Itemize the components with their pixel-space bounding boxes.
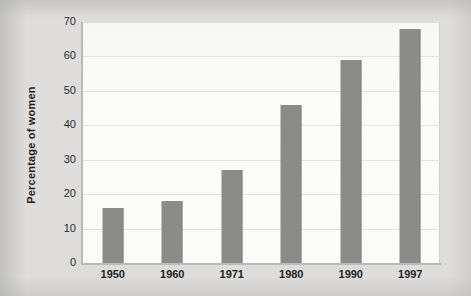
x-axis-tick-label: 1971 [220, 268, 244, 280]
bar-group [83, 22, 143, 263]
x-axis-tick-label: 1980 [279, 268, 303, 280]
bar-chart-figure: 010203040506070 Percentage of women 1950… [0, 0, 471, 296]
bar-series [83, 22, 440, 263]
bar-1960 [162, 201, 183, 263]
y-axis-tick-label: 40 [50, 119, 76, 130]
bar-group [143, 22, 203, 263]
bar-1980 [281, 105, 302, 263]
bar-1971 [221, 170, 242, 263]
bar-1990 [340, 60, 361, 263]
y-axis-tick-label: 10 [50, 223, 76, 234]
bar-group [202, 22, 262, 263]
y-axis-tick-label: 70 [50, 16, 76, 27]
x-axis-tick-label: 1960 [160, 268, 184, 280]
y-axis-title: Percentage of women [22, 50, 40, 240]
bar-1997 [400, 29, 421, 263]
bar-1950 [102, 208, 123, 263]
x-axis-tick-label: 1950 [101, 268, 125, 280]
x-axis-tick-labels: 195019601971198019901997 [83, 268, 440, 286]
x-axis-line [81, 263, 441, 265]
y-axis-title-label: Percentage of women [25, 86, 37, 204]
y-axis-tick-label: 30 [50, 154, 76, 165]
y-axis-tick-label: 0 [50, 257, 76, 268]
x-axis-tick-label: 1997 [398, 268, 422, 280]
bar-group [381, 22, 441, 263]
bar-group [262, 22, 322, 263]
y-axis-tick-label: 20 [50, 188, 76, 199]
x-axis-tick-label: 1990 [339, 268, 363, 280]
y-axis-tick-label: 50 [50, 85, 76, 96]
bar-group [321, 22, 381, 263]
y-axis-line [81, 22, 83, 264]
y-axis-tick-labels: 010203040506070 [50, 0, 76, 296]
y-axis-tick-label: 60 [50, 50, 76, 61]
